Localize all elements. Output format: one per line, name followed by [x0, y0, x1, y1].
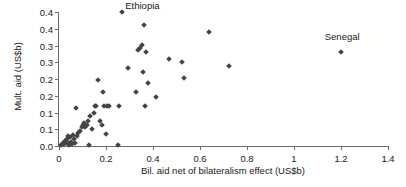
data-point: [133, 89, 139, 95]
scatter-chart: Mult. aid (US$b) 0.40.40.30.30.20.20.10.…: [0, 0, 406, 187]
x-axis-tick: [153, 146, 154, 150]
data-point: [125, 65, 131, 71]
y-axis-tick-label: 0.0: [40, 141, 53, 152]
x-axis-title: Bil. aid net of bilateralism effect (US$…: [58, 165, 388, 176]
x-axis-tick: [106, 146, 107, 150]
x-axis-tick: [247, 146, 248, 150]
data-point: [179, 59, 185, 65]
x-axis-tick-label: 0: [56, 153, 61, 164]
y-axis-tick: [55, 62, 59, 63]
plot-area: 0.40.40.30.30.20.20.10.10.000.20.40.60.8…: [58, 12, 388, 147]
data-point: [100, 90, 106, 96]
data-point: [144, 49, 150, 55]
data-point: [99, 122, 105, 128]
y-axis-tick-label: 0.4: [40, 23, 53, 34]
data-point: [119, 9, 125, 15]
plot-inner: 0.40.40.30.30.20.20.10.10.000.20.40.60.8…: [59, 12, 388, 146]
data-point: [89, 126, 95, 132]
y-axis-tick-label: 0.1: [40, 124, 53, 135]
point-annotation: Ethiopia: [125, 0, 159, 11]
y-axis-tick-label: 0.3: [40, 57, 53, 68]
y-axis-tick: [55, 129, 59, 130]
data-point: [207, 29, 213, 35]
x-axis-tick: [388, 146, 389, 150]
y-axis-tick: [55, 113, 59, 114]
y-axis-tick: [55, 96, 59, 97]
y-axis-tick-label: 0.1: [40, 107, 53, 118]
y-axis-tick-label: 0.4: [40, 7, 53, 18]
y-axis-tick-label: 0.3: [40, 40, 53, 51]
point-annotation: Senegal: [325, 31, 360, 42]
data-point: [140, 69, 146, 75]
x-axis-tick: [294, 146, 295, 150]
x-axis-tick-label: 0.6: [193, 153, 206, 164]
data-point: [96, 77, 102, 83]
x-axis-tick-label: 0.8: [240, 153, 253, 164]
data-point: [106, 103, 112, 109]
x-axis-tick-label: 1.2: [334, 153, 347, 164]
data-point: [142, 104, 148, 110]
data-point: [153, 94, 159, 100]
x-axis-tick-label: 0.4: [146, 153, 159, 164]
x-axis-tick-label: 1: [291, 153, 296, 164]
data-point: [93, 103, 99, 109]
y-axis-tick: [55, 29, 59, 30]
y-axis-title: Mult. aid (US$b): [9, 3, 27, 150]
data-point: [116, 103, 122, 109]
data-point: [115, 142, 121, 148]
data-point: [145, 80, 151, 86]
x-axis-tick-label: 1.4: [381, 153, 394, 164]
data-point: [181, 75, 187, 81]
x-axis-tick: [200, 146, 201, 150]
data-point: [103, 131, 109, 137]
y-axis-tick-label: 0.2: [40, 90, 53, 101]
x-axis-tick-label: 0.2: [99, 153, 112, 164]
data-point: [141, 22, 147, 28]
data-point: [73, 105, 79, 111]
y-axis-tick: [55, 79, 59, 80]
y-axis-tick: [55, 12, 59, 13]
data-point: [166, 56, 172, 62]
data-point: [226, 63, 232, 69]
x-axis-tick: [341, 146, 342, 150]
data-point: [86, 142, 92, 148]
y-axis-tick-label: 0.2: [40, 74, 53, 85]
y-axis-tick: [55, 46, 59, 47]
data-point: [339, 49, 345, 55]
